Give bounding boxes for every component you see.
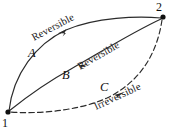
- node-dot-2: [160, 14, 165, 19]
- node-label-2: 2: [156, 0, 162, 14]
- node-dot-1: [5, 109, 10, 114]
- path-a-arrowhead: [58, 29, 67, 36]
- path-c-letter: C: [100, 80, 109, 94]
- path-b-letter: B: [62, 68, 70, 82]
- thermodynamic-path-diagram: 1 2 A Reversible B Reversible C Irrevers…: [0, 0, 171, 129]
- diagram-canvas: 1 2 A Reversible B Reversible C Irrevers…: [0, 0, 171, 129]
- path-a-letter: A: [27, 46, 36, 60]
- path-b-label: Reversible: [76, 39, 122, 72]
- node-label-1: 1: [2, 116, 8, 129]
